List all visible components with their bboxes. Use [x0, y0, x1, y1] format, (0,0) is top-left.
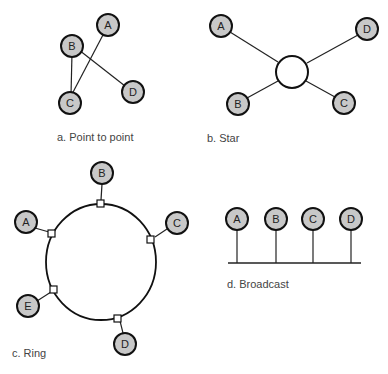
- network-topologies-figure: A B C D a. Point to point A D B C b. Sta…: [0, 0, 388, 374]
- edge-e-port: [37, 292, 51, 301]
- node-b: B: [61, 35, 83, 57]
- panel-star: A D B C b. Star: [207, 15, 378, 144]
- caption-ring: c. Ring: [12, 347, 46, 359]
- svg-text:E: E: [24, 300, 31, 312]
- edge-a-port: [35, 228, 49, 232]
- svg-text:D: D: [121, 338, 129, 350]
- ring-port-a: [48, 230, 55, 237]
- node-a: A: [97, 14, 119, 36]
- caption-point-to-point: a. Point to point: [57, 131, 133, 143]
- ring-port-b: [97, 200, 104, 207]
- node-b: B: [91, 162, 113, 184]
- svg-text:C: C: [66, 97, 74, 109]
- node-a: A: [210, 15, 232, 37]
- node-d: D: [122, 81, 144, 103]
- edge-b-port: [101, 184, 102, 200]
- node-a: A: [226, 208, 248, 230]
- edge-d-hub: [307, 35, 358, 63]
- svg-text:A: A: [217, 20, 225, 32]
- svg-text:B: B: [272, 213, 279, 225]
- svg-text:D: D: [347, 213, 355, 225]
- svg-text:B: B: [234, 98, 241, 110]
- node-b: B: [265, 208, 287, 230]
- edge-b-hub: [247, 81, 278, 98]
- node-c: C: [302, 208, 324, 230]
- svg-text:B: B: [68, 40, 75, 52]
- ring-port-c: [147, 236, 154, 243]
- node-e: E: [17, 295, 39, 317]
- edge-d-port: [120, 321, 123, 333]
- node-c: C: [166, 212, 188, 234]
- panel-broadcast: A B C D d. Broadcast: [226, 208, 362, 290]
- node-a: A: [15, 211, 37, 233]
- node-c: C: [333, 92, 355, 114]
- svg-text:C: C: [340, 97, 348, 109]
- svg-text:C: C: [309, 213, 317, 225]
- node-c: C: [59, 92, 81, 114]
- svg-text:A: A: [104, 19, 112, 31]
- edge-b-c: [71, 53, 72, 95]
- ring-port-d: [114, 315, 121, 322]
- star-hub: [276, 56, 308, 88]
- caption-star: b. Star: [207, 132, 240, 144]
- ring: [46, 204, 156, 320]
- node-d: D: [356, 18, 378, 40]
- caption-broadcast: d. Broadcast: [227, 278, 289, 290]
- node-d: D: [114, 333, 136, 355]
- panel-point-to-point: A B C D a. Point to point: [57, 14, 144, 143]
- ring-port-e: [50, 286, 57, 293]
- edge-a-hub: [230, 32, 278, 62]
- node-d: D: [340, 208, 362, 230]
- edge-c-hub: [306, 81, 335, 97]
- edge-c-port: [155, 229, 167, 237]
- panel-ring: B A C E D c. Ring: [12, 162, 188, 359]
- node-b: B: [227, 93, 249, 115]
- svg-text:D: D: [129, 86, 137, 98]
- svg-text:A: A: [22, 216, 30, 228]
- svg-text:A: A: [233, 213, 241, 225]
- svg-text:B: B: [98, 167, 105, 179]
- svg-text:D: D: [363, 23, 371, 35]
- svg-text:C: C: [173, 217, 181, 229]
